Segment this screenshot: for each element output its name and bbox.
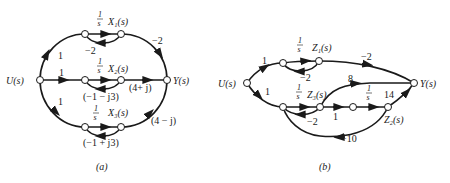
gain-z3-mid: 1 [333,111,338,122]
diagram-b: U(s) Y(s) 1 1 s Z₁(s) −2 −2 1 1 s Z₃(s) … [218,36,437,173]
node-z1 [316,58,323,65]
node-y-b [411,80,418,87]
node-x1 [118,31,125,38]
label-z1: Z₁(s) [312,42,332,54]
arrow-z1-int [300,61,306,62]
edge-x1-feedback [85,34,121,43]
node-x2-in [82,77,89,84]
frac-den-x3: s [94,113,97,122]
gain-x2-y: (4+ j) [129,82,152,94]
edge-x3-feedback [85,127,121,136]
gain-z2-y: 14 [384,89,394,100]
node-z2 [385,104,392,111]
label-x1: X₁(s) [107,16,129,28]
arrow-x3-y [147,113,150,116]
frac-den-x2: s [98,66,101,75]
node-x1-in [82,31,89,38]
node-z3-in [280,104,287,111]
label-x2: X₂(s) [107,63,129,75]
label-z3: Z₃(s) [307,89,327,101]
node-y-a [164,77,171,84]
node-u-a [37,77,44,84]
gain-z1-fb: −2 [300,72,311,83]
gain-u-x2: 1 [59,67,64,78]
frac-den-x1: s [98,19,101,28]
node-z2-in [350,104,357,111]
label-y-b: Y(s) [420,78,437,90]
frac-num-x3: 1 [94,104,98,113]
gain-x2-fb: (−1 − j3) [83,91,119,103]
arrow-u-x1 [46,54,47,56]
edge-x2-feedback [85,80,121,89]
node-x2 [118,77,125,84]
label-u-a: U(s) [6,75,24,87]
signal-flow-graphs: U(s) Y(s) 1 s X₁(s) 1 −2 −2 1 s X₂(s) 1 … [0,0,450,183]
frac-den-z1: s [298,45,301,54]
gain-z2-fb: −10 [341,133,357,144]
node-z1-in [280,60,287,67]
gain-z1-y: −2 [361,51,372,62]
gain-z3-y: 8 [348,73,353,84]
frac-num-z2: 1 [367,84,371,93]
caption-a: (a) [96,161,108,173]
gain-u-x3: 1 [58,96,63,107]
node-x3 [118,124,125,131]
label-y-a: Y(s) [173,75,190,87]
gain-u-x1: 1 [58,50,63,61]
arrow-u-z1 [262,67,265,69]
frac-num-z1: 1 [298,36,302,45]
node-u-b [244,80,251,87]
edge-z3-feedback [283,107,320,115]
label-z2: Z₂(s) [384,114,404,126]
gain-x3-y: (4 − j) [151,115,176,127]
frac-den-z3: s [297,92,300,101]
frac-num-x1: 1 [98,10,102,19]
arrow-z1-y [362,64,368,65]
gain-u-z1: 1 [262,55,267,66]
label-x3: X₃(s) [107,107,129,119]
gain-x1-fb: −2 [85,45,96,56]
gain-u-z3: 1 [265,86,270,97]
frac-den-z2: s [367,93,370,102]
node-x3-in [82,124,89,131]
caption-b: (b) [319,161,331,173]
label-u-b: U(s) [218,78,236,90]
arrow-u-x3 [54,110,56,112]
diagram-a: U(s) Y(s) 1 s X₁(s) 1 −2 −2 1 s X₂(s) 1 … [6,10,190,173]
frac-num-x2: 1 [98,57,102,66]
frac-num-z3: 1 [297,83,301,92]
arrow-z2-y [404,92,407,95]
edge-u-to-z1 [247,63,283,83]
node-z3 [317,104,324,111]
gain-z3-fb: −2 [307,116,318,127]
gain-x1-y: −2 [152,35,163,46]
gain-x3-fb: (−1 + j3) [83,137,119,149]
